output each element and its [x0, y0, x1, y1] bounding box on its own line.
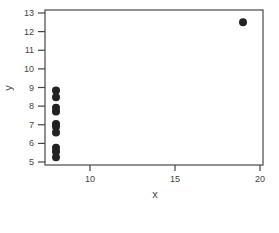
x-tick-label: 10 — [85, 174, 95, 184]
data-point — [52, 104, 60, 112]
scatter-chart: 5678910111213 101520 x y — [0, 0, 279, 233]
x-tick-label: 20 — [255, 174, 265, 184]
y-tick-label: 10 — [24, 64, 34, 74]
plot-frame — [45, 10, 263, 165]
x-tick-label: 15 — [170, 174, 180, 184]
y-tick-label: 6 — [29, 138, 34, 148]
data-point — [52, 123, 60, 131]
y-tick-label: 5 — [29, 157, 34, 167]
y-tick-label: 7 — [29, 120, 34, 130]
y-tick-label: 8 — [29, 101, 34, 111]
data-points — [52, 18, 247, 161]
y-tick-label: 12 — [24, 27, 34, 37]
data-point — [52, 93, 60, 101]
y-axis-title: y — [2, 85, 14, 91]
y-axis-ticks: 5678910111213 — [24, 8, 45, 167]
y-tick-label: 13 — [24, 8, 34, 18]
data-point — [239, 18, 247, 26]
data-point — [52, 86, 60, 94]
x-axis-title: x — [152, 188, 158, 200]
data-point — [52, 148, 60, 156]
y-tick-label: 11 — [25, 45, 34, 55]
y-tick-label: 9 — [29, 83, 34, 93]
x-axis-ticks: 101520 — [85, 165, 265, 184]
